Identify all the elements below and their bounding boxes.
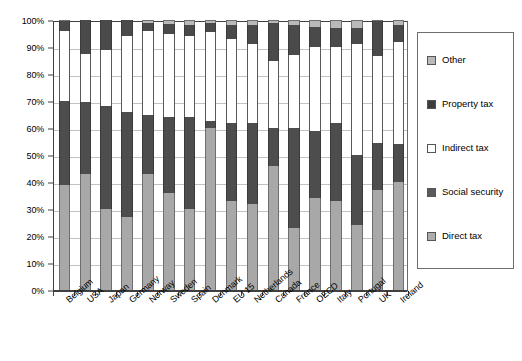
stacked-bar[interactable] [184,20,195,290]
stacked-bar[interactable] [351,20,362,290]
bar-segment-social[interactable] [205,121,216,128]
bar-group[interactable] [75,22,96,290]
bar-segment-social[interactable] [226,123,237,201]
bar-segment-direct[interactable] [330,201,341,290]
stacked-bar[interactable] [163,20,174,290]
bar-group[interactable] [117,22,138,290]
bar-segment-indirect[interactable] [268,61,279,129]
bar-segment-property[interactable] [100,20,111,50]
legend-item-indirect-tax[interactable]: Indirect tax [427,143,488,153]
bar-group[interactable] [54,22,75,290]
legend-item-other[interactable]: Other [427,55,466,65]
bar-group[interactable] [242,22,263,290]
bar-segment-property[interactable] [288,25,299,55]
bar-segment-direct[interactable] [59,185,70,290]
bar-segment-direct[interactable] [142,174,153,290]
bar-segment-indirect[interactable] [205,32,216,121]
bar-group[interactable] [346,22,367,290]
bar-segment-direct[interactable] [205,128,216,290]
bar-group[interactable] [96,22,117,290]
bar-segment-indirect[interactable] [247,44,258,122]
bar-segment-indirect[interactable] [288,55,299,128]
bar-segment-social[interactable] [247,123,258,204]
bar-segment-indirect[interactable] [59,31,70,101]
bar-segment-property[interactable] [226,25,237,39]
stacked-bar[interactable] [100,20,111,290]
bar-segment-indirect[interactable] [330,47,341,123]
bar-segment-indirect[interactable] [80,54,91,103]
stacked-bar[interactable] [330,20,341,290]
bar-segment-social[interactable] [142,115,153,174]
bar-segment-indirect[interactable] [100,50,111,107]
bar-segment-direct[interactable] [309,198,320,290]
stacked-bar[interactable] [288,20,299,290]
bar-segment-direct[interactable] [121,217,132,290]
bar-segment-social[interactable] [330,123,341,201]
bar-segment-social[interactable] [80,102,91,174]
stacked-bar[interactable] [142,20,153,290]
bar-group[interactable] [138,22,159,290]
bar-segment-property[interactable] [184,25,195,36]
bar-segment-property[interactable] [163,24,174,33]
bar-segment-social[interactable] [393,144,404,182]
bar-segment-property[interactable] [309,27,320,47]
bar-group[interactable] [158,22,179,290]
bar-segment-social[interactable] [100,106,111,209]
bar-segment-property[interactable] [205,23,216,32]
bar-segment-social[interactable] [351,155,362,225]
bar-segment-social[interactable] [288,128,299,228]
legend-item-property-tax[interactable]: Property tax [427,99,493,109]
stacked-bar[interactable] [59,20,70,290]
bar-segment-social[interactable] [309,131,320,199]
bar-segment-indirect[interactable] [226,39,237,123]
bar-segment-property[interactable] [247,25,258,44]
bar-group[interactable] [200,22,221,290]
bar-group[interactable] [325,22,346,290]
stacked-bar[interactable] [80,20,91,290]
stacked-bar[interactable] [372,20,383,290]
bar-segment-property[interactable] [80,20,91,54]
bar-segment-social[interactable] [59,101,70,185]
stacked-bar[interactable] [205,20,216,290]
bar-segment-other[interactable] [351,20,362,28]
stacked-bar[interactable] [393,20,404,290]
bar-segment-indirect[interactable] [372,56,383,142]
bar-segment-property[interactable] [142,23,153,31]
stacked-bar[interactable] [226,20,237,290]
bar-segment-property[interactable] [59,21,70,30]
bar-segment-property[interactable] [268,23,279,61]
bar-segment-direct[interactable] [80,174,91,290]
bar-segment-indirect[interactable] [142,31,153,115]
stacked-bar[interactable] [309,20,320,290]
bar-segment-direct[interactable] [163,193,174,290]
bar-group[interactable] [221,22,242,290]
bar-segment-social[interactable] [184,117,195,209]
bar-segment-direct[interactable] [393,182,404,290]
bar-segment-property[interactable] [121,20,132,36]
bar-segment-direct[interactable] [372,190,383,290]
bar-segment-direct[interactable] [268,166,279,290]
legend-item-social-security[interactable]: Social security [427,187,503,197]
bar-segment-property[interactable] [393,25,404,41]
stacked-bar[interactable] [247,20,258,290]
bar-group[interactable] [284,22,305,290]
bar-segment-indirect[interactable] [163,34,174,118]
stacked-bar[interactable] [121,20,132,290]
bar-segment-direct[interactable] [100,209,111,290]
bar-segment-other[interactable] [330,20,341,28]
stacked-bar[interactable] [268,20,279,290]
bar-group[interactable] [179,22,200,290]
bar-group[interactable] [305,22,326,290]
bar-group[interactable] [367,22,388,290]
bar-segment-property[interactable] [351,28,362,44]
bar-segment-indirect[interactable] [184,36,195,117]
bar-group[interactable] [388,22,409,290]
bar-segment-property[interactable] [330,28,341,47]
bar-segment-indirect[interactable] [309,47,320,131]
bar-segment-social[interactable] [163,117,174,193]
bar-segment-direct[interactable] [351,225,362,290]
legend-item-direct-tax[interactable]: Direct tax [427,231,482,241]
bar-segment-indirect[interactable] [393,42,404,145]
bar-segment-social[interactable] [268,128,279,166]
bar-segment-social[interactable] [121,112,132,217]
